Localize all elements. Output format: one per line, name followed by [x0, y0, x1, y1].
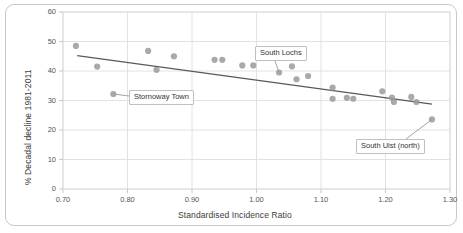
y-tick-label: 40 — [36, 66, 56, 75]
y-tick-label: 60 — [36, 7, 56, 16]
data-point — [171, 53, 177, 59]
data-point — [110, 91, 116, 97]
callout-leader — [406, 119, 432, 139]
data-point — [429, 116, 435, 122]
x-tick-label: 1.30 — [432, 195, 463, 204]
data-point — [330, 84, 336, 90]
data-point — [379, 88, 385, 94]
data-point — [73, 43, 79, 49]
chart-container: % Decadal decline 1981-2011 Standardised… — [5, 4, 457, 226]
data-point — [391, 99, 397, 105]
y-tick-label: 10 — [36, 155, 56, 164]
x-tick-label: 1.10 — [303, 195, 339, 204]
data-point — [289, 63, 295, 69]
data-point — [250, 62, 256, 68]
x-tick-label: 1.00 — [239, 195, 275, 204]
data-point — [293, 76, 299, 82]
annotation-stornoway-town: Stornoway Town — [129, 90, 194, 105]
annotation-south-lochs: South Lochs — [255, 46, 307, 61]
data-point — [94, 63, 100, 69]
data-point — [153, 67, 159, 73]
scatter-plot — [6, 5, 458, 227]
data-point — [219, 57, 225, 63]
data-point — [239, 62, 245, 68]
y-axis-title: % Decadal decline 1981-2011 — [23, 70, 33, 185]
data-point — [211, 57, 217, 63]
y-tick-label: 20 — [36, 125, 56, 134]
data-point — [344, 95, 350, 101]
y-tick-label: 30 — [36, 96, 56, 105]
annotation-south-uist-north: South Uist (north) — [356, 139, 425, 154]
x-tick-label: 0.70 — [45, 195, 81, 204]
x-tick-label: 0.90 — [174, 195, 210, 204]
data-point — [305, 73, 311, 79]
data-point — [350, 96, 356, 102]
data-point — [408, 94, 414, 100]
data-point — [145, 48, 151, 54]
data-point — [413, 99, 419, 105]
x-axis-title: Standardised Incidence Ratio — [178, 210, 292, 220]
data-point — [276, 69, 282, 75]
y-tick-label: 50 — [36, 37, 56, 46]
y-tick-label: 0 — [36, 184, 56, 193]
data-point — [330, 96, 336, 102]
x-tick-label: 0.80 — [110, 195, 146, 204]
x-tick-label: 1.20 — [368, 195, 404, 204]
